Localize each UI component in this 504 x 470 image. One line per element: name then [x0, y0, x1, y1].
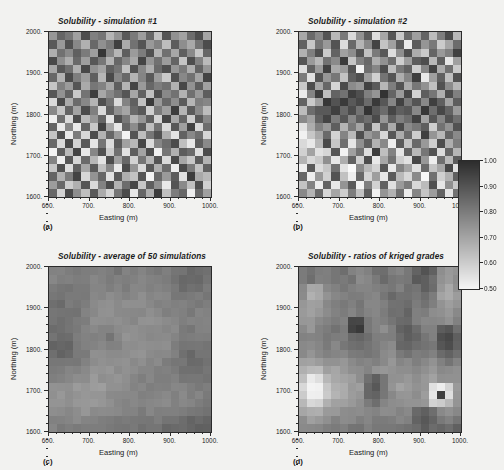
- y-axis-minor-tick: [46, 365, 48, 366]
- y-axis-tick: [294, 390, 298, 391]
- heatmap-plot-area: [48, 31, 212, 198]
- y-axis-minor-tick: [296, 406, 298, 407]
- x-axis-minor-tick: [64, 432, 65, 434]
- x-axis-minor-tick: [56, 197, 57, 199]
- x-axis-minor-tick: [113, 432, 114, 434]
- x-axis-minor-tick: [436, 432, 437, 434]
- y-axis-minor-tick: [296, 398, 298, 399]
- x-axis-minor-tick: [371, 197, 372, 199]
- x-axis-minor-tick: [452, 432, 453, 434]
- panel-title: Solubility - average of 50 simulations: [58, 252, 206, 261]
- x-axis-minor-tick: [452, 197, 453, 199]
- heatmap-canvas: [49, 267, 211, 432]
- x-axis-tick-label: 900.: [413, 437, 425, 444]
- y-axis-tick: [44, 31, 48, 32]
- x-axis-minor-tick: [347, 197, 348, 199]
- heatmap-plot-area: [48, 266, 212, 433]
- y-axis-minor-tick: [296, 332, 298, 333]
- colorbar-gradient: [458, 160, 480, 290]
- y-axis-tick-label: 1600.: [15, 193, 42, 200]
- x-axis-minor-tick: [411, 432, 412, 434]
- x-axis-minor-tick: [387, 432, 388, 434]
- x-axis-tick-label: 1000.: [452, 437, 468, 444]
- colorbar-tick-label: 0.60: [484, 259, 496, 266]
- y-axis-minor-tick: [296, 163, 298, 164]
- x-axis-minor-tick: [113, 197, 114, 199]
- x-axis-minor-tick: [202, 432, 203, 434]
- y-axis-tick-label: 1600.: [265, 193, 292, 200]
- y-axis-label: Northing (m): [259, 102, 268, 144]
- y-axis-minor-tick: [46, 324, 48, 325]
- y-axis-tick-label: 1700.: [15, 151, 42, 158]
- y-axis-minor-tick: [296, 122, 298, 123]
- y-axis-tick: [294, 114, 298, 115]
- y-axis-minor-tick: [296, 171, 298, 172]
- y-axis-minor-tick: [46, 398, 48, 399]
- y-axis-minor-tick: [46, 332, 48, 333]
- y-axis-minor-tick: [296, 188, 298, 189]
- y-axis-minor-tick: [46, 163, 48, 164]
- y-axis-minor-tick: [296, 365, 298, 366]
- x-axis-minor-tick: [153, 432, 154, 434]
- y-axis-tick-label: 1700.: [265, 151, 292, 158]
- y-axis-tick-label: 1700.: [15, 386, 42, 393]
- x-axis-minor-tick: [178, 197, 179, 199]
- y-axis-tick: [44, 155, 48, 156]
- x-axis-minor-tick: [363, 432, 364, 434]
- colorbar-tick-label: 0.90: [484, 182, 496, 189]
- panel-title: Solubility - ratios of kriged grades: [308, 252, 444, 261]
- y-axis-minor-tick: [46, 204, 48, 205]
- x-axis-tick: [170, 432, 171, 436]
- y-axis-tick-label: 1900.: [15, 69, 42, 76]
- colorbar-tick: [479, 186, 483, 187]
- y-axis-tick-label: 1800.: [15, 345, 42, 352]
- y-axis-tick-label: 1800.: [265, 110, 292, 117]
- y-axis-minor-tick: [46, 130, 48, 131]
- y-axis-tick: [44, 114, 48, 115]
- colorbar-tick-label: 0.50: [484, 285, 496, 292]
- y-axis-tick: [44, 307, 48, 308]
- x-axis-tick: [298, 197, 299, 201]
- x-axis-minor-tick: [371, 432, 372, 434]
- x-axis-minor-tick: [56, 432, 57, 434]
- y-axis-minor-tick: [46, 213, 48, 214]
- y-axis-tick: [294, 31, 298, 32]
- x-axis-tick-label: 900.: [163, 437, 175, 444]
- y-axis-minor-tick: [296, 97, 298, 98]
- x-axis-tick-label: 1000.: [202, 437, 218, 444]
- x-axis-tick-label: 700.: [332, 202, 344, 209]
- panel-tag: (a): [43, 222, 53, 231]
- x-axis-minor-tick: [186, 197, 187, 199]
- y-axis-minor-tick: [296, 147, 298, 148]
- x-axis-tick: [210, 432, 211, 436]
- y-axis-tick: [294, 155, 298, 156]
- colorbar-tick-label: 0.80: [484, 208, 496, 215]
- x-axis-tick: [48, 432, 49, 436]
- x-axis-minor-tick: [105, 197, 106, 199]
- y-axis-tick: [294, 431, 298, 432]
- x-axis-minor-tick: [363, 197, 364, 199]
- x-axis-tick: [339, 197, 340, 201]
- x-axis-minor-tick: [347, 432, 348, 434]
- x-axis-minor-tick: [178, 432, 179, 434]
- x-axis-minor-tick: [330, 432, 331, 434]
- y-axis-minor-tick: [46, 357, 48, 358]
- y-axis-tick-label: 1700.: [265, 386, 292, 393]
- y-axis-minor-tick: [296, 324, 298, 325]
- x-axis-tick: [339, 432, 340, 436]
- y-axis-minor-tick: [296, 81, 298, 82]
- x-axis-minor-tick: [161, 197, 162, 199]
- x-axis-minor-tick: [186, 432, 187, 434]
- x-axis-tick: [129, 432, 130, 436]
- y-axis-tick-label: 2000.: [15, 263, 42, 270]
- x-axis-minor-tick: [428, 432, 429, 434]
- y-axis-minor-tick: [296, 448, 298, 449]
- y-axis-minor-tick: [296, 423, 298, 424]
- y-axis-tick-label: 1900.: [265, 304, 292, 311]
- y-axis-minor-tick: [296, 130, 298, 131]
- y-axis-minor-tick: [296, 373, 298, 374]
- y-axis-minor-tick: [296, 204, 298, 205]
- x-axis-minor-tick: [314, 197, 315, 199]
- x-axis-tick-label: 600.: [292, 437, 304, 444]
- x-axis-minor-tick: [202, 197, 203, 199]
